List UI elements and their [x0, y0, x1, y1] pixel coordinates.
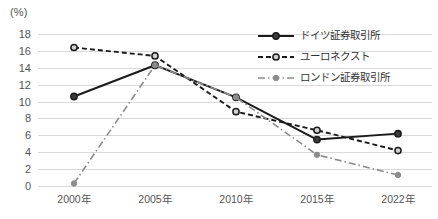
- y-axis-tick-label: 18: [19, 28, 31, 40]
- x-axis-tick-label: 2022年: [381, 193, 414, 205]
- y-axis-tick-label: 8: [25, 112, 31, 124]
- data-point-marker: [395, 130, 401, 136]
- data-point-marker: [71, 44, 77, 50]
- y-axis-tick-label: 16: [19, 45, 31, 57]
- data-point-marker: [152, 63, 157, 68]
- line-chart-svg: 024681012141618 2000年2005年2010年2015年2022…: [0, 0, 438, 219]
- data-point-marker: [314, 152, 319, 157]
- x-axis-tick-label: 2015年: [300, 193, 333, 205]
- data-point-marker: [71, 181, 76, 186]
- legend-marker: [273, 75, 278, 80]
- legend-marker: [273, 54, 279, 60]
- chart-container: (%) 024681012141618 2000年2005年2010年2015年…: [0, 0, 438, 219]
- y-axis-tick-label: 10: [19, 96, 31, 108]
- y-axis-tick-label: 4: [25, 146, 31, 158]
- data-point-marker: [395, 147, 401, 153]
- data-point-marker: [233, 95, 238, 100]
- legend-label: ドイツ証券取引所: [300, 29, 381, 41]
- x-axis-tick-label: 2000年: [57, 193, 90, 205]
- series-line: [74, 65, 398, 183]
- x-axis-tick-labels: 2000年2005年2010年2015年2022年: [57, 193, 414, 205]
- data-point-marker: [152, 53, 158, 59]
- legend-label: ユーロネクスト: [300, 50, 370, 62]
- y-axis-tick-label: 14: [19, 62, 31, 74]
- data-point-marker: [233, 109, 239, 115]
- data-point-marker: [395, 172, 400, 177]
- y-axis-tick-label: 12: [19, 79, 31, 91]
- data-point-marker: [71, 93, 77, 99]
- y-axis-tick-labels: 024681012141618: [19, 28, 31, 192]
- data-point-marker: [314, 136, 320, 142]
- legend-label: ロンドン証券取引所: [300, 71, 391, 83]
- x-axis-tick-label: 2005年: [138, 193, 171, 205]
- x-axis-tick-label: 2010年: [219, 193, 252, 205]
- chart-legend: ドイツ証券取引所ユーロネクストロンドン証券取引所: [258, 29, 391, 83]
- y-axis-tick-label: 6: [25, 129, 31, 141]
- y-axis-tick-label: 0: [25, 180, 31, 192]
- y-axis-tick-label: 2: [25, 163, 31, 175]
- data-point-marker: [314, 127, 320, 133]
- legend-marker: [273, 33, 279, 39]
- series-group: [71, 44, 401, 186]
